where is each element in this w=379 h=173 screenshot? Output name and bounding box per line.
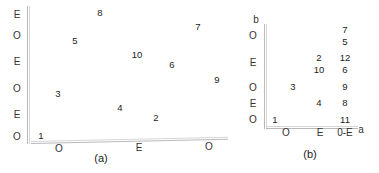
panel-b-point: 8 [342, 98, 347, 108]
panel-a-point: 5 [72, 36, 77, 46]
panel-b-point: 2 [316, 53, 321, 63]
panel-a-y-axis-line-inner [29, 6, 30, 144]
panel-b-x-label: 0-E [337, 128, 353, 138]
panel-b-caption: (b) [303, 149, 316, 160]
panel-b-y-axis-line-inner [266, 24, 267, 129]
panel-b-y-label: O [249, 115, 257, 125]
panel-a-caption: (a) [94, 153, 107, 164]
panel-a-y-label: O [13, 84, 21, 94]
panel-b-point: 12 [340, 53, 351, 63]
panel-a-point: 2 [153, 113, 158, 123]
panel-b-point: 4 [316, 98, 321, 108]
panel-a-y-label: O [13, 132, 21, 142]
panel-a-point: 10 [132, 50, 143, 60]
panel-a-y-label: E [14, 110, 21, 120]
panel-b-y-axis-line [264, 24, 265, 129]
panel-a-point: 4 [117, 103, 122, 113]
panel-b-point: 3 [290, 82, 295, 92]
panel-a-y-label: E [14, 57, 21, 67]
panel-a-point: 6 [169, 60, 174, 70]
panel-b-y-label: O [249, 31, 257, 41]
panel-b-point: 10 [314, 65, 325, 75]
panel-b-y-axis-title: b [253, 15, 259, 25]
panel-b-point: 9 [342, 82, 347, 92]
panel-a-y-label: O [13, 31, 21, 41]
panel-a-y-label: E [14, 10, 21, 20]
panel-a-x-label: O [55, 144, 63, 154]
panel-a-point: 3 [55, 89, 60, 99]
panel-a-point: 8 [97, 8, 102, 18]
panel-a-point: 7 [195, 22, 200, 32]
panel-b-point: 7 [342, 25, 347, 35]
panel-b-point: 1 [272, 115, 277, 125]
panel-b-y-label: E [250, 99, 257, 109]
panel-a-x-label: O [205, 142, 213, 152]
panel-b-x-axis-title: a [358, 125, 364, 135]
panel-b-point: 5 [342, 37, 347, 47]
panel-b-y-label: O [249, 83, 257, 93]
panel-b-x-label: O [282, 128, 290, 138]
panel-a-x-label: E [136, 143, 143, 153]
panel-a-point: 9 [214, 75, 219, 85]
panel-b-y-label: E [250, 58, 257, 68]
panel-a-y-axis-line [27, 6, 28, 144]
panel-a-point: 1 [38, 131, 43, 141]
panel-b-point: 6 [342, 65, 347, 75]
panel-b-x-label: E [317, 128, 324, 138]
panel-b-point: 11 [340, 115, 350, 125]
